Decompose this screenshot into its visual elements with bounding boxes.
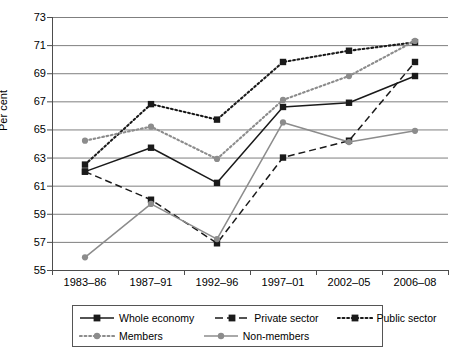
data-point [82,161,88,167]
legend-item-non-members[interactable]: Non-members [203,330,310,342]
legend-label: Non-members [243,330,310,342]
data-point [280,104,286,110]
legend-item-whole-economy[interactable]: Whole economy [79,312,194,324]
data-point [346,139,352,145]
x-tick-label: 1983–86 [64,276,107,288]
series-line [85,62,415,243]
data-point [412,59,418,65]
data-point [214,116,220,122]
legend-item-members[interactable]: Members [79,330,163,342]
legend-label: Members [119,330,163,342]
data-point [346,73,352,79]
legend-row-2: MembersNon-members [79,327,382,345]
data-point [148,124,154,130]
data-point [214,180,220,186]
series-line [85,42,415,164]
series-line [85,122,415,257]
legend-label: Public sector [377,312,437,324]
data-point [346,48,352,54]
x-tick-label: 2002–05 [328,276,371,288]
x-tick-label: 2006–08 [394,276,437,288]
data-point [412,73,418,79]
chart-plot [0,0,455,352]
data-point [280,119,286,125]
legend-key-circle [203,330,239,342]
legend-item-public-sector[interactable]: Public sector [337,312,437,324]
legend-key-square [79,312,115,324]
data-point [412,128,418,134]
data-point [148,201,154,207]
legend-label: Private sector [254,312,318,324]
data-point [280,97,286,103]
data-point [280,59,286,65]
legend-key-circle [79,330,115,342]
x-tick-label: 1992–96 [196,276,239,288]
legend-key-square [214,312,250,324]
x-tick-label: 1987–91 [130,276,173,288]
chart-figure: Per cent 73716967656361595755 1983–86198… [0,0,455,352]
data-point [82,254,88,260]
series-line [85,41,415,159]
data-point [412,38,418,44]
legend-row-1: Whole economyPrivate sectorPublic sector [79,309,382,327]
data-point [280,154,286,160]
x-tick-label: 1997–01 [262,276,305,288]
data-point [148,145,154,151]
data-point [148,101,154,107]
data-point [82,138,88,144]
series-non-members [82,119,418,260]
x-axis-tick-labels: 1983–861987–911992–961997–012002–052006–… [52,276,448,292]
data-series [82,38,418,261]
legend-key-square [337,312,373,324]
series-public-sector [82,39,418,168]
legend-label: Whole economy [119,312,194,324]
data-point [82,168,88,174]
data-point [346,100,352,106]
data-point [214,236,220,242]
legend-item-private-sector[interactable]: Private sector [214,312,318,324]
data-point [214,156,220,162]
series-members [82,38,418,162]
chart-legend: Whole economyPrivate sectorPublic sector… [72,305,383,347]
